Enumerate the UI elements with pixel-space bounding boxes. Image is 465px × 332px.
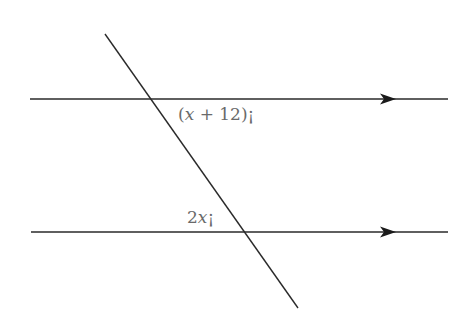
bottom-angle-prefix: 2	[187, 207, 198, 227]
top-angle-degree-symbol: ¡	[248, 104, 255, 124]
top-angle-prefix: (	[178, 104, 185, 124]
bottom-angle-degree-symbol: ¡	[207, 207, 214, 227]
bottom-angle-label: 2x¡	[187, 209, 214, 226]
parallel-lines-diagram	[0, 0, 465, 332]
bottom-angle-variable: x	[198, 207, 208, 227]
top-angle-variable: x	[185, 104, 195, 124]
top-angle-rest: + 12)	[194, 104, 247, 124]
transversal-line	[105, 34, 298, 308]
top-angle-label: (x + 12)¡	[178, 106, 254, 123]
